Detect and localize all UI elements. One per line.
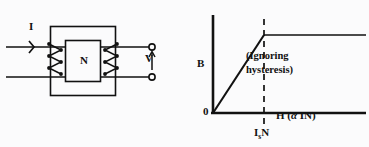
current-label: I [29,21,33,32]
origin-label: 0 [203,106,209,117]
core-turns-label: N [80,55,88,66]
hysteresis-annotation-line1: (Ignoring [246,49,293,63]
saturation-current-label: IsN [254,127,269,141]
saturation-turns-symbol: N [261,126,269,138]
output-terminal-bottom [149,74,155,80]
figure-vector-layer [0,0,369,147]
voltage-label: V [145,53,153,64]
hysteresis-annotation-line2: hysteresis) [246,63,293,77]
h-axis-label-suffix: IN) [297,109,316,121]
h-axis-label: H (α IN) [276,110,316,121]
hysteresis-annotation: (Ignoring hysteresis) [246,49,293,77]
figure-canvas: I N V B 0 H (α IN) IsN (Ignoring hystere… [0,0,369,147]
b-axis-label: B [197,58,204,69]
output-terminal-top [149,44,155,50]
h-axis-label-prefix: H ( [276,109,291,121]
